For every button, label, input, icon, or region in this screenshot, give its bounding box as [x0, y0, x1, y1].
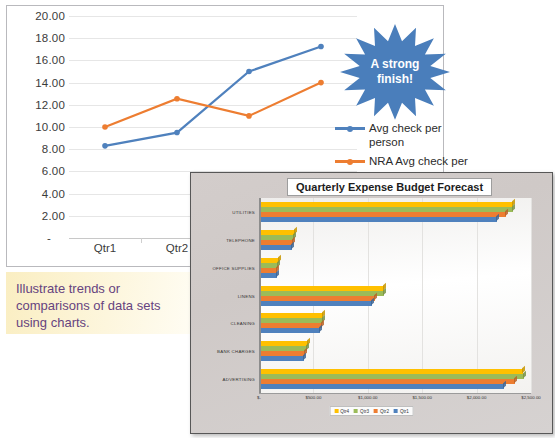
bar-legend-label: Qtr4: [340, 409, 349, 414]
bar-face: [259, 245, 292, 250]
bar-3d-edge: [303, 353, 306, 360]
bar-3d-edge: [523, 371, 526, 378]
bar-3d-edge: [276, 269, 279, 276]
legend-marker-icon: [335, 155, 365, 167]
y-axis-tick-label: 16.00: [35, 54, 65, 66]
bar-legend-label: Qtr1: [400, 409, 409, 414]
bar-legend-item[interactable]: Qtr2: [374, 409, 389, 414]
line-series: [105, 47, 321, 146]
gridline: [422, 198, 423, 393]
bar-chart-x-axis-line: [259, 393, 531, 394]
bar-3d-edge: [291, 242, 294, 249]
bar-x-axis-tick-label: $1,500.00: [412, 395, 432, 400]
bar-legend-item[interactable]: Qtr3: [354, 409, 369, 414]
bar: [259, 273, 277, 278]
bar-category-label: OFFICE SUPPLIES: [212, 265, 255, 270]
legend-marker-icon: [335, 122, 365, 134]
caption-text: Illustrate trends or comparisons of data…: [16, 280, 184, 331]
bar: [259, 356, 304, 361]
legend-item-avg-check[interactable]: Avg check per person: [335, 121, 477, 149]
y-axis-tick-label: 12.00: [35, 99, 65, 111]
bar: [259, 301, 372, 306]
data-point: [102, 143, 108, 149]
data-point: [246, 113, 252, 119]
data-point: [246, 69, 252, 75]
bar-3d-edge: [512, 204, 515, 211]
bar-category-label: UTILITIES: [232, 209, 255, 214]
bar: [259, 328, 320, 333]
y-axis-tick-label: 14.00: [35, 77, 65, 89]
bar: [259, 245, 292, 250]
data-point: [174, 130, 180, 136]
bar-3d-edge: [514, 376, 517, 383]
data-point: [318, 44, 324, 50]
bar-chart-category-axis: UTILITIESTELEPHONEOFFICE SUPPLIESLINENSC…: [191, 198, 255, 393]
y-axis-tick-label: 20.00: [35, 10, 65, 22]
bar-chart-panel[interactable]: Quarterly Expense Budget Forecast UTILIT…: [190, 172, 553, 434]
caption-box: Illustrate trends or comparisons of data…: [6, 272, 194, 334]
data-point: [174, 96, 180, 102]
gridline: [531, 198, 532, 393]
bar-category-label: CLEANING: [231, 321, 255, 326]
bar-x-axis-tick-label: $2,000.00: [467, 395, 487, 400]
data-point: [102, 124, 108, 130]
bar-chart-legend[interactable]: Qtr4Qtr3Qtr2Qtr1: [329, 406, 414, 416]
bar-face: [259, 217, 497, 222]
bar-x-axis-tick-label: $-: [257, 395, 261, 400]
bar-category-label: BANK CHARGES: [217, 349, 255, 354]
bar-chart-plot-area: [259, 198, 531, 393]
bar-legend-item[interactable]: Qtr4: [334, 409, 349, 414]
bar-category-label: TELEPHONE: [226, 237, 255, 242]
bar-3d-edge: [371, 297, 374, 304]
legend-swatch-icon: [374, 409, 378, 413]
x-axis-tick-label: Qtr2: [166, 242, 188, 254]
legend-swatch-icon: [334, 409, 338, 413]
bar-legend-label: Qtr2: [380, 409, 389, 414]
bar-3d-edge: [503, 381, 506, 388]
y-axis-tick-label: 10.00: [35, 121, 65, 133]
bar-chart-title: Quarterly Expense Budget Forecast: [287, 178, 492, 196]
line-chart-zero-label: -: [47, 232, 51, 244]
y-axis-tick-label: 6.00: [42, 165, 65, 177]
bar-3d-edge: [496, 214, 499, 221]
bar: [259, 384, 504, 389]
bar-x-axis-tick-label: $500.00: [305, 395, 321, 400]
data-point: [318, 80, 324, 86]
y-axis-tick-label: 4.00: [42, 188, 65, 200]
y-axis-tick-label: 18.00: [35, 32, 65, 44]
bar-legend-item[interactable]: Qtr1: [394, 409, 409, 414]
bar-category-label: LINENS: [238, 293, 255, 298]
y-axis-tick-label: 8.00: [42, 143, 65, 155]
y-axis-tick-label: 2.00: [42, 210, 65, 222]
bar-face: [259, 301, 372, 306]
bar-face: [259, 273, 277, 278]
bar: [259, 217, 497, 222]
bar-3d-edge: [383, 287, 386, 294]
legend-swatch-icon: [394, 409, 398, 413]
line-series: [105, 83, 321, 127]
bar-chart-value-axis-line: [259, 198, 261, 393]
line-chart-y-axis: 2.004.006.008.0010.0012.0014.0016.0018.0…: [7, 16, 65, 238]
bar-face: [259, 384, 504, 389]
starburst-icon: [340, 24, 450, 120]
x-axis-tick: [141, 238, 142, 243]
bar-x-axis-tick-label: $2,500.00: [521, 395, 541, 400]
legend-swatch-icon: [354, 409, 358, 413]
bar-face: [259, 356, 304, 361]
bar-face: [259, 328, 320, 333]
legend-label: Avg check per person: [369, 121, 477, 149]
bar-legend-label: Qtr3: [360, 409, 369, 414]
bar-3d-edge: [374, 292, 377, 299]
bar-3d-edge: [319, 325, 322, 332]
gridline: [477, 198, 478, 393]
bar-category-label: ADVERTISING: [223, 377, 255, 382]
bar-3d-edge: [505, 209, 508, 216]
bar-x-axis-tick-label: $1,000.00: [358, 395, 378, 400]
x-axis-tick-label: Qtr1: [94, 242, 116, 254]
callout-starburst[interactable]: A strong finish!: [340, 24, 450, 120]
